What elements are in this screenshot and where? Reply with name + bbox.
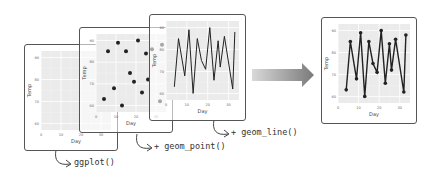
- data-point: [375, 70, 379, 74]
- y-tick-label: 90: [160, 26, 164, 30]
- data-point: [367, 40, 371, 44]
- x-axis-label: Day: [198, 108, 208, 115]
- data-point: [379, 29, 383, 33]
- y-tick-label: 90: [90, 39, 94, 43]
- data-point: [116, 41, 120, 45]
- y-tick-label: 80: [90, 60, 94, 64]
- y-tick-label: 70: [90, 82, 94, 86]
- data-point: [371, 62, 375, 66]
- y-tick-label: 90: [35, 56, 39, 60]
- y-tick-label: 60: [90, 104, 94, 108]
- y-tick-label: 80: [160, 48, 164, 52]
- panel-geom-line: 010203060708090DayTemp: [149, 14, 246, 121]
- x-tick-label: 0: [95, 115, 97, 119]
- data-point: [344, 88, 348, 92]
- y-tick-label: 80: [332, 51, 336, 55]
- y-axis-label: Temp: [81, 66, 88, 80]
- x-tick-label: 20: [134, 115, 138, 119]
- x-tick-label: 30: [99, 133, 103, 137]
- y-tick-label: 80: [35, 78, 39, 82]
- label-geom-line: + geom_line(): [231, 127, 298, 137]
- y-tick-label: 70: [332, 73, 336, 77]
- data-point: [402, 90, 406, 94]
- x-tick-label: 0: [337, 106, 339, 110]
- plot-svg: 010203060708090DayTemp: [150, 15, 245, 120]
- x-tick-label: 10: [59, 133, 63, 137]
- data-point: [128, 71, 132, 75]
- label-ggplot: ggplot(): [74, 157, 115, 167]
- data-point: [106, 49, 110, 53]
- x-axis-label: Day: [369, 111, 379, 118]
- data-point: [120, 104, 124, 108]
- x-tick-label: 30: [226, 103, 230, 107]
- data-point: [136, 39, 140, 43]
- hook-arrow-ggplot-icon: [52, 148, 76, 172]
- data-point: [140, 91, 144, 95]
- x-tick-label: 0: [165, 103, 167, 107]
- data-point: [112, 86, 116, 90]
- data-point: [349, 40, 353, 44]
- data-point: [388, 42, 392, 46]
- y-tick-label: 60: [160, 92, 164, 96]
- y-tick-label: 60: [332, 95, 336, 99]
- y-tick-label: 90: [332, 29, 336, 33]
- data-point: [394, 38, 398, 42]
- x-axis-label: Day: [71, 138, 81, 145]
- x-axis-label: Day: [126, 120, 136, 127]
- data-point: [359, 31, 363, 35]
- y-axis-label: Temp: [151, 54, 158, 68]
- x-tick-label: 20: [377, 106, 381, 110]
- data-point: [404, 33, 408, 37]
- x-tick-label: 10: [114, 115, 118, 119]
- label-geom-point: + geom_point(): [154, 141, 226, 151]
- y-axis-label: Temp: [323, 57, 330, 71]
- y-axis-label: Temp: [26, 84, 33, 98]
- x-tick-label: 20: [205, 103, 209, 107]
- data-point: [355, 77, 359, 81]
- x-tick-label: 10: [185, 103, 189, 107]
- panel-final-plot: 010203060708090DayTemp: [321, 17, 417, 124]
- data-point: [384, 81, 388, 85]
- x-tick-label: 20: [79, 133, 83, 137]
- data-point: [390, 68, 394, 72]
- data-point: [124, 49, 128, 53]
- y-tick-label: 70: [160, 70, 164, 74]
- plot-svg: 010203060708090DayTemp: [322, 18, 416, 123]
- y-tick-label: 70: [35, 100, 39, 104]
- x-tick-label: 10: [356, 106, 360, 110]
- data-point: [132, 80, 136, 84]
- y-tick-label: 60: [35, 122, 39, 126]
- result-arrow-icon: [252, 63, 316, 87]
- data-point: [363, 95, 367, 99]
- data-point: [102, 97, 106, 101]
- data-point: [144, 52, 148, 56]
- x-tick-label: 30: [397, 106, 401, 110]
- x-tick-label: 0: [40, 133, 42, 137]
